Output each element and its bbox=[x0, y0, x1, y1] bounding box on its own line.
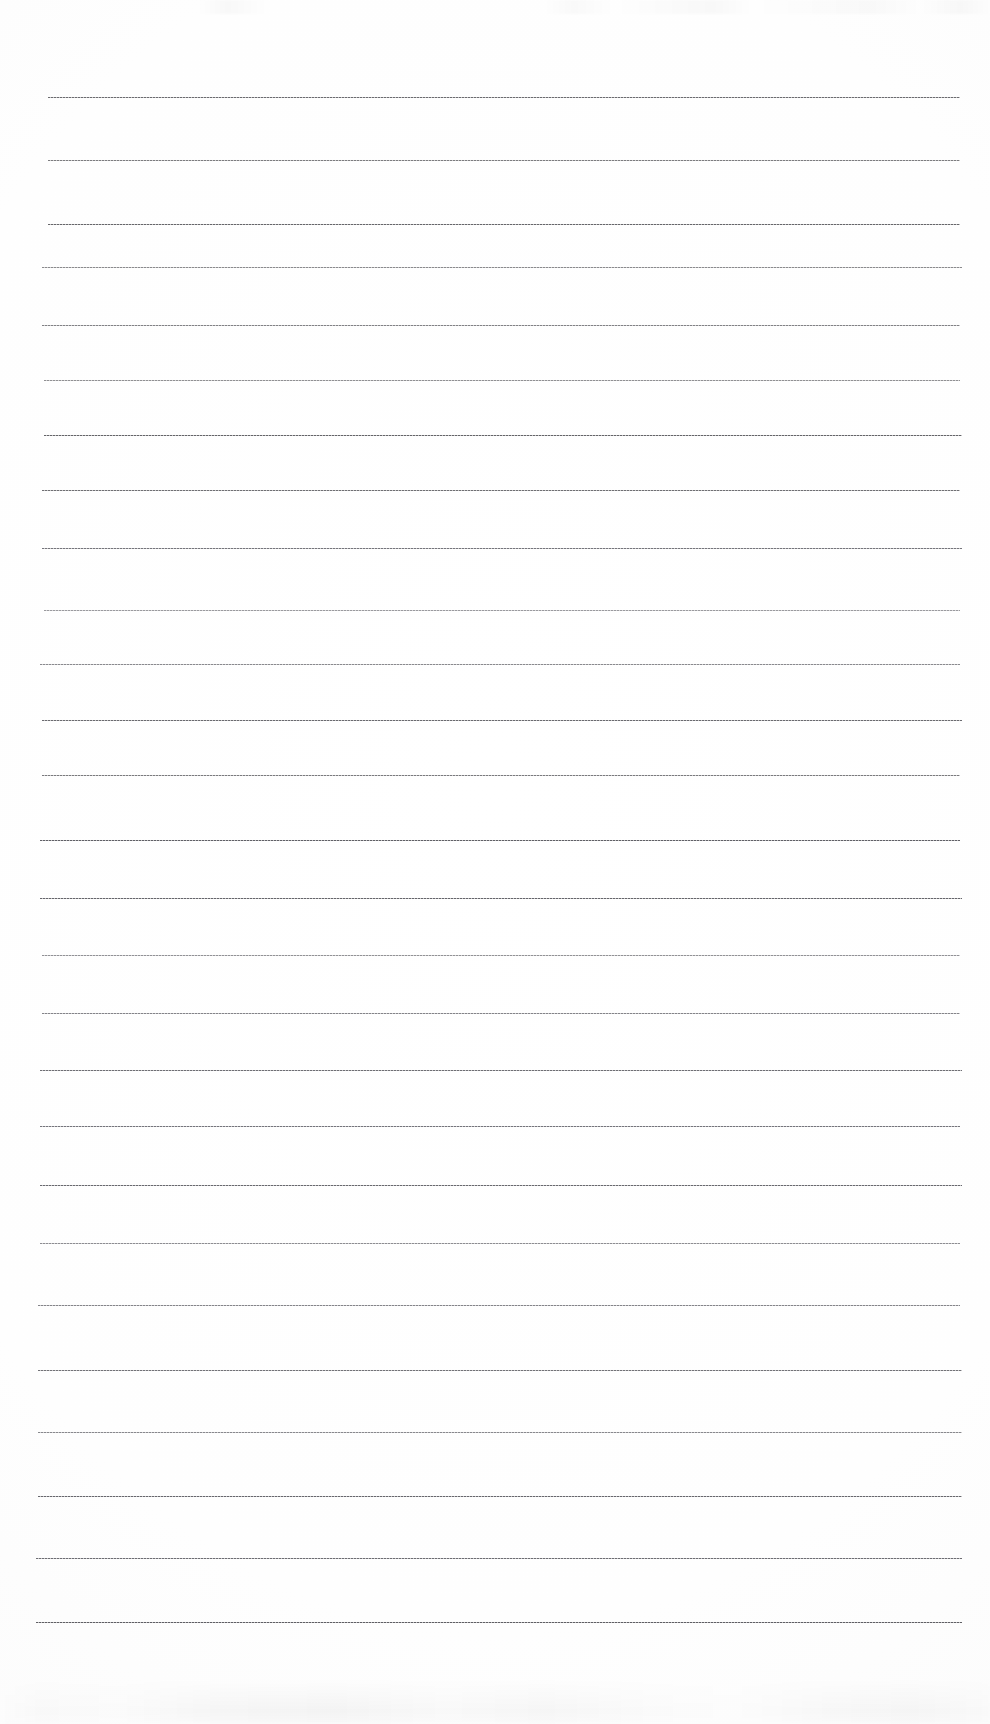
ruled-line bbox=[40, 1243, 960, 1244]
ruled-line bbox=[40, 1070, 962, 1071]
ruled-line bbox=[40, 840, 960, 841]
ruled-line bbox=[42, 490, 960, 491]
ruled-line bbox=[40, 898, 962, 899]
ruled-line bbox=[36, 1622, 962, 1623]
ruled-line bbox=[38, 1305, 960, 1306]
ruled-line bbox=[42, 548, 962, 549]
ruled-line bbox=[42, 1013, 960, 1014]
ruled-line bbox=[42, 325, 960, 326]
ruled-line bbox=[48, 224, 960, 225]
ruled-line bbox=[42, 775, 960, 776]
ruled-line bbox=[42, 720, 962, 721]
ruled-line bbox=[48, 160, 960, 161]
ruled-line bbox=[44, 380, 960, 381]
ruled-line bbox=[38, 1370, 962, 1371]
ruled-line bbox=[44, 610, 960, 611]
ruled-line bbox=[44, 435, 962, 436]
ruled-line bbox=[42, 955, 960, 956]
ruled-line bbox=[42, 267, 962, 268]
ruled-line bbox=[38, 1496, 962, 1497]
ruled-line bbox=[36, 1558, 962, 1559]
ruled-line bbox=[48, 97, 960, 98]
scanned-page bbox=[0, 0, 990, 1724]
ruled-line bbox=[40, 1185, 962, 1186]
ruled-line bbox=[40, 664, 960, 665]
ruled-line bbox=[38, 1432, 962, 1433]
ruled-line bbox=[40, 1126, 960, 1127]
ruled-lines-layer bbox=[0, 0, 990, 1724]
